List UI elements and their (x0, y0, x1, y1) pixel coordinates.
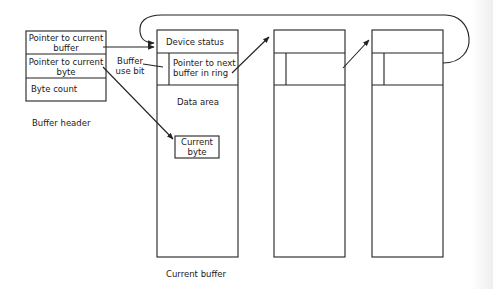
current-byte-line2: byte (175, 147, 219, 157)
arrow-header-to-current-byte (103, 67, 173, 139)
current-byte-label: Current byte (175, 137, 219, 157)
next-pointer-line2: buffer in ring (173, 68, 236, 78)
header-field-current-buffer-line1: Pointer to current (26, 33, 106, 43)
current-byte-line1: Current (175, 137, 219, 147)
next-pointer-line1: Pointer to next (173, 58, 236, 68)
header-field-current-buffer: Pointer to current buffer (26, 33, 106, 53)
page-edge-shadow (471, 0, 493, 289)
data-area-label: Data area (177, 97, 219, 107)
current-buffer-caption: Current buffer (166, 269, 226, 279)
header-field-byte-count: Byte count (31, 84, 77, 94)
arrow-buffer-2-to-buffer-3 (343, 40, 369, 68)
buffer-header-caption: Buffer header (32, 118, 90, 128)
next-pointer-label: Pointer to next buffer in ring (173, 58, 236, 78)
buffer-use-bit-line2: use bit (113, 66, 147, 76)
header-field-current-byte-line1: Pointer to current (26, 57, 106, 67)
device-status-label: Device status (166, 37, 224, 47)
header-field-current-buffer-line2: buffer (26, 43, 106, 53)
buffer-use-bit-label: Buffer use bit (113, 56, 147, 76)
ring-buffer-3-box (372, 30, 443, 257)
header-field-current-byte-line2: byte (26, 67, 106, 77)
header-field-current-byte: Pointer to current byte (26, 57, 106, 77)
ring-buffer-2-box (274, 30, 345, 257)
buffer-use-bit-line1: Buffer (113, 56, 147, 66)
